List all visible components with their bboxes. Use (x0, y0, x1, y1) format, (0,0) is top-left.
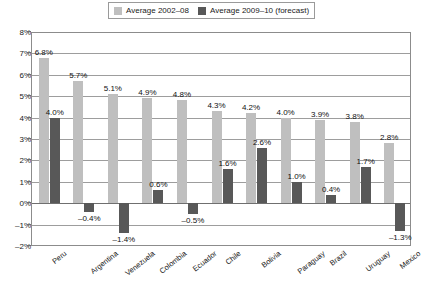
y-axis-tick-label: 6% (5, 70, 31, 79)
bar-average-2009-10 (84, 203, 94, 212)
bar-average-2002-08 (384, 143, 394, 203)
bar-value-label: 1.7% (346, 157, 386, 166)
legend-label-0: Average 2002–08 (126, 6, 189, 15)
bar-value-label: 0.6% (138, 180, 178, 189)
y-axis-tick-label: –2% (5, 242, 31, 251)
bar-value-label: 1.6% (208, 159, 248, 168)
bar-value-label: –0.4% (69, 214, 109, 223)
bar-value-label: 2.6% (242, 138, 282, 147)
y-axis-tick-label: 5% (5, 92, 31, 101)
x-axis-category-label: Brazil (328, 249, 348, 268)
x-axis-category-label: Mexico (398, 249, 422, 271)
bar-value-label: 6.8% (24, 48, 64, 57)
gridline (32, 53, 410, 54)
x-axis-category-label: Uruguay (364, 249, 392, 274)
bar-average-2009-10 (395, 203, 405, 231)
y-axis: 8%7%6%5%4%3%2%1%0%–1%–2% (0, 32, 31, 246)
bar-average-2002-08 (246, 113, 256, 203)
x-axis-category-label: Colombia (158, 249, 189, 276)
bar-value-label: –0.5% (173, 216, 213, 225)
bar-value-label: –1.4% (104, 235, 144, 244)
x-axis-category-label: Peru (51, 249, 69, 266)
bar-average-2002-08 (108, 94, 118, 203)
legend-label-1: Average 2009–10 (forecast) (210, 6, 309, 15)
y-axis-tick-label: 2% (5, 156, 31, 165)
y-axis-tick-label: 1% (5, 177, 31, 186)
gridline (32, 96, 410, 97)
bar-average-2009-10 (119, 203, 129, 233)
bar-average-2002-08 (281, 118, 291, 204)
bar-average-2009-10 (188, 203, 198, 214)
bar-chart: Average 2002–08 Average 2009–10 (forecas… (0, 0, 424, 293)
plot-area: 6.8%4.0%5.7%–0.4%5.1%–1.4%4.9%0.6%4.8%–0… (31, 32, 411, 246)
bar-value-label: 4.8% (162, 90, 202, 99)
y-axis-tick-label: 0% (5, 199, 31, 208)
bar-value-label: 5.7% (58, 71, 98, 80)
bar-average-2002-08 (39, 58, 49, 204)
y-axis-tick-label: –1% (5, 220, 31, 229)
bar-average-2009-10 (361, 167, 371, 203)
y-axis-tick-label: 4% (5, 113, 31, 122)
x-axis-category-label: Ecuador (191, 249, 219, 273)
bar-value-label: 4.0% (35, 108, 75, 117)
x-axis-category-label: Chile (224, 249, 243, 267)
x-axis-category-label: Paraguay (296, 249, 327, 276)
bar-average-2009-10 (257, 148, 267, 204)
bar-average-2009-10 (326, 195, 336, 204)
y-axis-tick-label: 8% (5, 28, 31, 37)
bar-average-2009-10 (50, 118, 60, 204)
legend-swatch-average-2009-10 (198, 7, 206, 15)
x-axis-category-label: Argentina (89, 249, 120, 276)
legend-swatch-average-2002-08 (114, 7, 122, 15)
bar-average-2002-08 (177, 100, 187, 203)
bar-average-2002-08 (212, 111, 222, 203)
bar-average-2002-08 (73, 81, 83, 203)
bar-value-label: 2.8% (369, 133, 409, 142)
bar-value-label: –1.3% (380, 233, 420, 242)
bar-average-2009-10 (223, 169, 233, 203)
bar-value-label: 1.0% (277, 172, 317, 181)
bar-average-2009-10 (153, 190, 163, 203)
x-axis-category-label: Bolivia (259, 249, 282, 270)
chart-legend: Average 2002–08 Average 2009–10 (forecas… (108, 2, 315, 19)
gridline (32, 225, 410, 226)
y-axis-tick-label: 3% (5, 135, 31, 144)
bar-average-2009-10 (292, 182, 302, 203)
bar-value-label: 3.8% (335, 112, 375, 121)
legend-entry-1: Average 2009–10 (forecast) (198, 6, 309, 15)
bar-value-label: 0.4% (311, 185, 351, 194)
x-axis-category-label: Venezuela (124, 249, 157, 278)
legend-entry-0: Average 2002–08 (114, 6, 189, 15)
